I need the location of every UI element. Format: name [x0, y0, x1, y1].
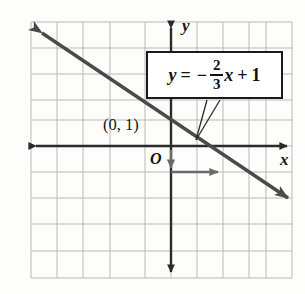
- coordinate-plane-figure: y x O (0, 1) y = − 2 3 x + 1: [0, 0, 305, 294]
- plotted-line: [42, 33, 288, 198]
- slope-triangle: [171, 150, 218, 172]
- grid-lines: [31, 22, 292, 278]
- graph-canvas: [0, 0, 305, 294]
